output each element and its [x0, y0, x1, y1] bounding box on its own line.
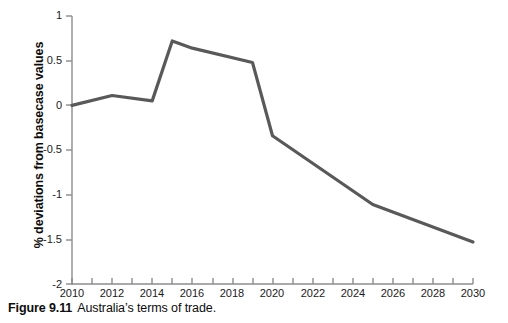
data-series-line [72, 41, 473, 242]
x-axis-ticks [72, 278, 473, 284]
chart-svg [0, 0, 508, 300]
figure-caption: Figure 9.11Australia’s terms of trade. [8, 301, 216, 315]
figure-caption-text: Australia’s terms of trade. [77, 301, 216, 315]
chart-plot-area: % deviations from basecase values 1 0.5 … [0, 0, 508, 300]
axis-lines [72, 16, 473, 285]
figure-caption-label: Figure 9.11 [8, 301, 72, 315]
y-axis-ticks [66, 16, 72, 284]
figure-container: % deviations from basecase values 1 0.5 … [0, 0, 508, 323]
